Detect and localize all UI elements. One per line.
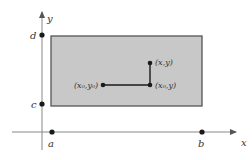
point-x0-y0 bbox=[101, 83, 106, 88]
label-x0-y: (x₀,y) bbox=[155, 81, 176, 90]
label-c: c bbox=[31, 99, 37, 110]
point-c bbox=[39, 101, 44, 106]
point-b bbox=[199, 129, 204, 134]
shaded-rectangle-region bbox=[51, 36, 202, 106]
x-axis-label: x bbox=[241, 137, 247, 148]
point-d bbox=[39, 32, 44, 37]
point-a bbox=[49, 129, 54, 134]
label-b: b bbox=[198, 138, 204, 149]
label-x-y: (x,y) bbox=[155, 58, 173, 67]
label-x0-y0: (x₀,y₀) bbox=[74, 81, 98, 90]
label-a: a bbox=[48, 138, 54, 149]
label-d: d bbox=[30, 30, 36, 41]
rectangle-region-diagram: x y d c a b (x₀,y₀) (x₀,y) (x,y) bbox=[0, 0, 252, 160]
point-x0-y bbox=[148, 83, 153, 88]
y-axis-label: y bbox=[46, 13, 53, 24]
point-x-y bbox=[148, 61, 153, 66]
